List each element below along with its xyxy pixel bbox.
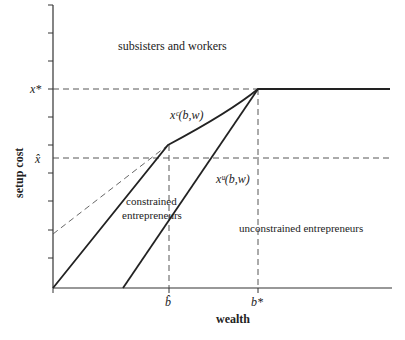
region-label-constrained-2: entrepreneurs	[122, 209, 182, 221]
constrained-curve	[53, 89, 390, 288]
region-label-constrained-1: constrained	[126, 195, 177, 207]
curve-label-constrained: xᶜ(b,w)	[169, 108, 203, 122]
region-label-unconstrained: unconstrained entrepreneurs	[239, 222, 363, 234]
x-axis-label: wealth	[216, 312, 250, 326]
x-tick-label-b-hat: b̂	[165, 295, 171, 309]
y-tick-label-x-star: x*	[29, 82, 41, 96]
region-label-subsisters: subsisters and workers	[118, 39, 227, 53]
x-axis-ticks	[53, 288, 258, 293]
diagram-canvas: subsisters and workers constrained entre…	[0, 0, 405, 340]
y-axis-label: setup cost	[12, 148, 26, 198]
y-axis-ticks	[48, 5, 53, 258]
x-tick-label-b-star: b*	[251, 295, 263, 309]
curve-label-unconstrained: xᵘ(b,w)	[215, 172, 250, 186]
y-tick-label-x-hat: x̂	[34, 152, 41, 166]
